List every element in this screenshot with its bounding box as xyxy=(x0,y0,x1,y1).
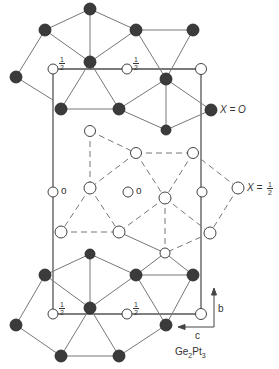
frac-den: 2 xyxy=(267,189,273,196)
formula-element-pt: Pt xyxy=(192,346,201,357)
frac-num: 1 xyxy=(59,301,65,309)
frac-num: 1 xyxy=(59,56,65,64)
axis-label-b: b xyxy=(218,304,224,314)
formula-element-ge: Ge xyxy=(175,346,188,357)
frac-den: 2 xyxy=(133,64,139,71)
height-label-half: 12 xyxy=(59,56,65,71)
frac-den: 2 xyxy=(59,309,65,316)
arrow-c-icon xyxy=(178,325,185,330)
frac-num: 1 xyxy=(133,301,139,309)
axis-label-c: c xyxy=(195,331,200,341)
frac-num: 1 xyxy=(267,181,273,189)
layer-label-x0: X = O xyxy=(220,105,246,115)
height-label-half: 12 xyxy=(59,301,65,316)
frac-den: 2 xyxy=(133,309,139,316)
layer-label-x-half: X = xyxy=(247,183,262,193)
frac-num: 1 xyxy=(133,56,139,64)
height-label-half: 12 xyxy=(133,56,139,71)
bottom-bonds xyxy=(16,69,201,356)
open-atoms xyxy=(48,64,244,320)
arrow-b-icon xyxy=(212,288,217,295)
height-label-zero: o xyxy=(61,186,67,196)
height-label-zero: o xyxy=(136,186,142,196)
dark-atoms xyxy=(10,3,217,362)
axis-arrows xyxy=(178,288,217,330)
layer-label-x-half-fraction: 12 xyxy=(267,181,273,196)
formula-sub-pt: 3 xyxy=(202,352,206,359)
height-label-half: 12 xyxy=(133,301,139,316)
formula-label: Ge2Pt3 xyxy=(175,347,206,359)
frac-den: 2 xyxy=(59,64,65,71)
